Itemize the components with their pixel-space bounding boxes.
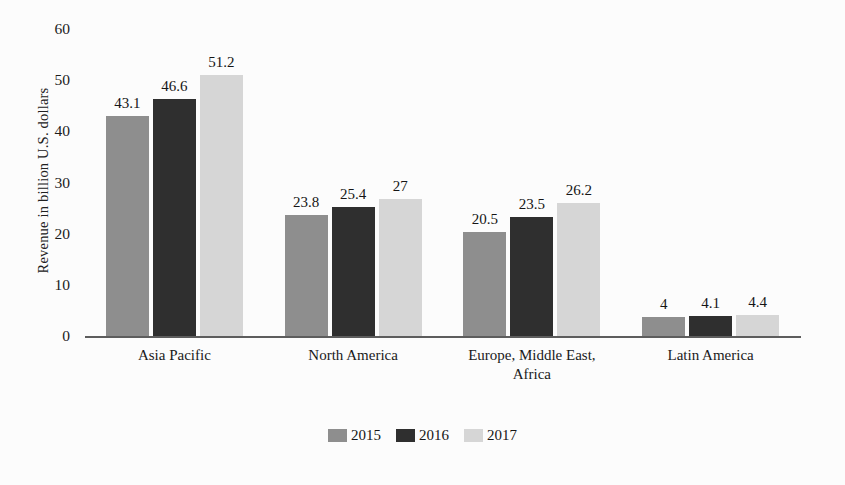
bar-value-label: 23.8 [293, 195, 319, 210]
bar-2016[interactable] [510, 217, 553, 337]
bar-value-label: 26.2 [566, 183, 592, 198]
legend-label: 2017 [487, 428, 517, 443]
legend-item-2017[interactable]: 2017 [464, 428, 517, 443]
bar-item[interactable]: 23.5 [510, 30, 553, 337]
bar-item[interactable]: 51.2 [200, 30, 243, 337]
bar-item[interactable]: 4 [642, 30, 685, 337]
y-axis-tick-label: 20 [24, 226, 70, 242]
bar-group-bars: 20.523.526.2 [443, 30, 622, 337]
x-axis-category-label: Europe, Middle East,Africa [443, 346, 622, 384]
bar-group: 20.523.526.2 [443, 30, 622, 337]
bar-item[interactable]: 27 [379, 30, 422, 337]
bar-item[interactable]: 43.1 [106, 30, 149, 337]
bar-group-bars: 44.14.4 [621, 30, 800, 337]
bar-group-bars: 43.146.651.2 [85, 30, 264, 337]
y-axis-tick-label: 50 [24, 72, 70, 88]
bar-value-label: 25.4 [340, 187, 366, 202]
bar-item[interactable]: 23.8 [285, 30, 328, 337]
legend-swatch-icon [328, 429, 347, 442]
x-axis-category-label: Latin America [621, 346, 800, 365]
y-axis-tick-label: 60 [24, 21, 70, 37]
x-axis-category-label: North America [264, 346, 443, 365]
bar-2015[interactable] [642, 317, 685, 337]
bar-value-label: 46.6 [161, 79, 187, 94]
bar-value-label: 27 [393, 179, 408, 194]
bar-group: 44.14.4 [621, 30, 800, 337]
bar-item[interactable]: 46.6 [153, 30, 196, 337]
bar-item[interactable]: 4.1 [689, 30, 732, 337]
bar-value-label: 4.1 [701, 296, 720, 311]
legend-label: 2015 [351, 428, 381, 443]
bar-group: 23.825.427 [264, 30, 443, 337]
bar-2016[interactable] [153, 99, 196, 337]
legend-item-2015[interactable]: 2015 [328, 428, 381, 443]
x-axis-category-label-line: Europe, Middle East, [443, 346, 622, 365]
bar-item[interactable]: 25.4 [332, 30, 375, 337]
bar-item[interactable]: 4.4 [736, 30, 779, 337]
legend-swatch-icon [464, 429, 483, 442]
x-axis-category-label-line: Latin America [621, 346, 800, 365]
bar-item[interactable]: 26.2 [557, 30, 600, 337]
legend-label: 2016 [419, 428, 449, 443]
bar-2016[interactable] [689, 316, 732, 337]
y-axis-tick-label: 0 [24, 328, 70, 344]
plot-area: 43.146.651.223.825.42720.523.526.244.14.… [85, 30, 800, 337]
bar-group-bars: 23.825.427 [264, 30, 443, 337]
x-axis-category-label-line: North America [264, 346, 443, 365]
bar-chart: Revenue in billion U.S. dollars 01020304… [0, 0, 845, 485]
bar-group: 43.146.651.2 [85, 30, 264, 337]
bar-2017[interactable] [379, 199, 422, 337]
bar-value-label: 43.1 [114, 96, 140, 111]
bar-value-label: 51.2 [208, 55, 234, 70]
bar-item[interactable]: 20.5 [463, 30, 506, 337]
y-axis-tick-label: 40 [24, 123, 70, 139]
x-axis-category-label: Asia Pacific [85, 346, 264, 365]
bar-value-label: 4 [660, 297, 668, 312]
bar-2016[interactable] [332, 207, 375, 337]
bar-2015[interactable] [106, 116, 149, 337]
bar-2017[interactable] [200, 75, 243, 337]
bar-2015[interactable] [285, 215, 328, 337]
legend-swatch-icon [396, 429, 415, 442]
bar-2017[interactable] [736, 315, 779, 338]
y-axis-tick-label: 30 [24, 175, 70, 191]
bar-2017[interactable] [557, 203, 600, 337]
legend-item-2016[interactable]: 2016 [396, 428, 449, 443]
bar-value-label: 4.4 [748, 295, 767, 310]
y-axis-tick-label: 10 [24, 277, 70, 293]
x-axis-category-label-line: Africa [443, 365, 622, 384]
bar-value-label: 20.5 [472, 212, 498, 227]
x-axis-line [85, 336, 801, 338]
chart-legend: 201520162017 [0, 428, 845, 443]
bar-value-label: 23.5 [519, 197, 545, 212]
x-axis-category-label-line: Asia Pacific [85, 346, 264, 365]
bar-2015[interactable] [463, 232, 506, 337]
